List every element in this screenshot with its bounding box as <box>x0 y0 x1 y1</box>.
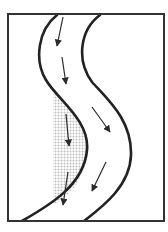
diagram-canvas <box>0 0 168 232</box>
river-meander-diagram <box>0 0 168 232</box>
